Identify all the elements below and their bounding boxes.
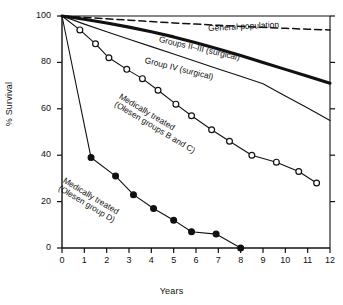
x-tick-marks	[62, 248, 330, 253]
data-point-marker	[227, 138, 233, 144]
y-tick-label: 60	[25, 103, 51, 113]
data-point-marker	[213, 231, 219, 237]
data-point-marker	[151, 206, 157, 212]
data-point-marker	[155, 87, 161, 93]
data-point-marker	[173, 101, 179, 107]
y-tick-label: 20	[25, 196, 51, 206]
data-point-marker	[77, 27, 83, 33]
survival-chart-figure: % Survival Years 0123456789101112 020406…	[0, 0, 343, 305]
y-axis-title: % Survival	[4, 82, 14, 127]
data-point-marker	[131, 192, 137, 198]
data-point-marker	[171, 217, 177, 223]
y-tick-label: 40	[25, 149, 51, 159]
y-tick-label: 100	[25, 10, 51, 20]
data-point-marker	[113, 173, 119, 179]
data-point-marker	[209, 127, 215, 133]
y-tick-marks-right	[330, 16, 335, 202]
data-point-marker	[189, 113, 195, 119]
y-tick-label: 0	[25, 242, 51, 252]
x-axis-title: Years	[0, 286, 343, 296]
data-point-marker	[314, 180, 320, 186]
data-point-marker	[296, 169, 302, 175]
data-point-marker	[106, 55, 112, 61]
data-point-marker	[189, 229, 195, 235]
y-tick-label: 80	[25, 56, 51, 66]
data-point-marker	[88, 155, 94, 161]
y-tick-marks	[57, 16, 62, 248]
data-point-marker	[238, 245, 244, 251]
data-point-marker	[124, 66, 130, 72]
data-point-marker	[93, 41, 99, 47]
data-point-marker	[140, 76, 146, 82]
data-point-marker	[274, 159, 280, 165]
x-tick-label: 12	[315, 255, 343, 265]
data-point-marker	[249, 152, 255, 158]
